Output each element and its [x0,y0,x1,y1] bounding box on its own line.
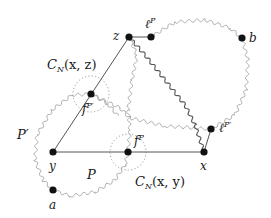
label-P-prime: P′ [17,128,29,141]
node-lPp [207,125,214,132]
label-cn-xy-args: (x, y) [152,174,185,189]
label-fPp: fP′ [82,103,94,115]
node-x [200,148,207,155]
label-cn-xz-sub: N [57,65,64,74]
node-z [125,33,132,40]
wavy-path-fpp-branch [91,94,118,116]
label-lPp-sup: P′ [224,120,231,129]
label-cn-xy-C: C [135,174,145,189]
label-cn-xz: CN(x, z) [47,58,97,71]
label-lPp: ℓP′ [219,122,231,134]
label-P: P [87,168,96,181]
node-lP [147,33,154,40]
label-fP: fP [134,135,144,147]
node-y [49,148,56,155]
edge-x-lPp [204,129,211,152]
label-cn-xz-args: (x, z) [64,57,97,72]
dotted-circles [73,76,146,170]
node-fPp [87,90,94,97]
label-fP-sup: P [138,133,143,142]
label-cn-xy-sub: N [145,182,152,191]
label-a: a [49,199,56,211]
node-a [49,186,56,193]
label-x: x [200,160,207,172]
label-b: b [249,32,257,44]
label-lP-sup: P [150,16,155,25]
label-fPp-sup: P′ [86,101,93,110]
label-z: z [113,30,119,42]
label-cn-xy: CN(x, y) [135,175,185,188]
label-y: y [49,160,56,172]
label-lP: ℓP [145,18,155,30]
wavy-path-right-loop [151,18,249,128]
label-cn-xz-C: C [47,57,57,72]
node-b [238,34,245,41]
node-fP [124,148,131,155]
wavy-path-fpp-to-lpp [91,94,211,130]
wavy-paths-light [34,18,250,197]
diagram-canvas: z ℓP b CN(x, z) fP′ P′ y fP x ℓP′ P CN(x… [0,0,271,218]
